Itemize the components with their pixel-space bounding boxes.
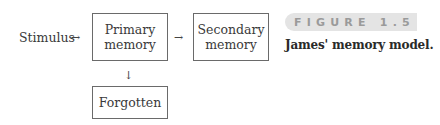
arrow-down-icon: ↓ xyxy=(124,70,133,81)
figure-number: FIGURE 1.5 xyxy=(294,16,415,29)
figure-caption: James' memory model. xyxy=(285,38,433,52)
primary-memory-label: Primary memory xyxy=(104,22,156,52)
stimulus-label: Stimulus xyxy=(19,30,75,45)
figure-label-banner: FIGURE 1.5 xyxy=(285,13,417,31)
secondary-memory-box: Secondary memory xyxy=(193,13,269,61)
primary-memory-box: Primary memory xyxy=(92,13,168,61)
arrow-right-icon: → xyxy=(174,32,183,43)
secondary-memory-label: Secondary memory xyxy=(197,22,264,52)
arrow-right-icon: → xyxy=(71,32,80,43)
forgotten-box: Forgotten xyxy=(92,86,168,119)
forgotten-label: Forgotten xyxy=(99,95,162,110)
